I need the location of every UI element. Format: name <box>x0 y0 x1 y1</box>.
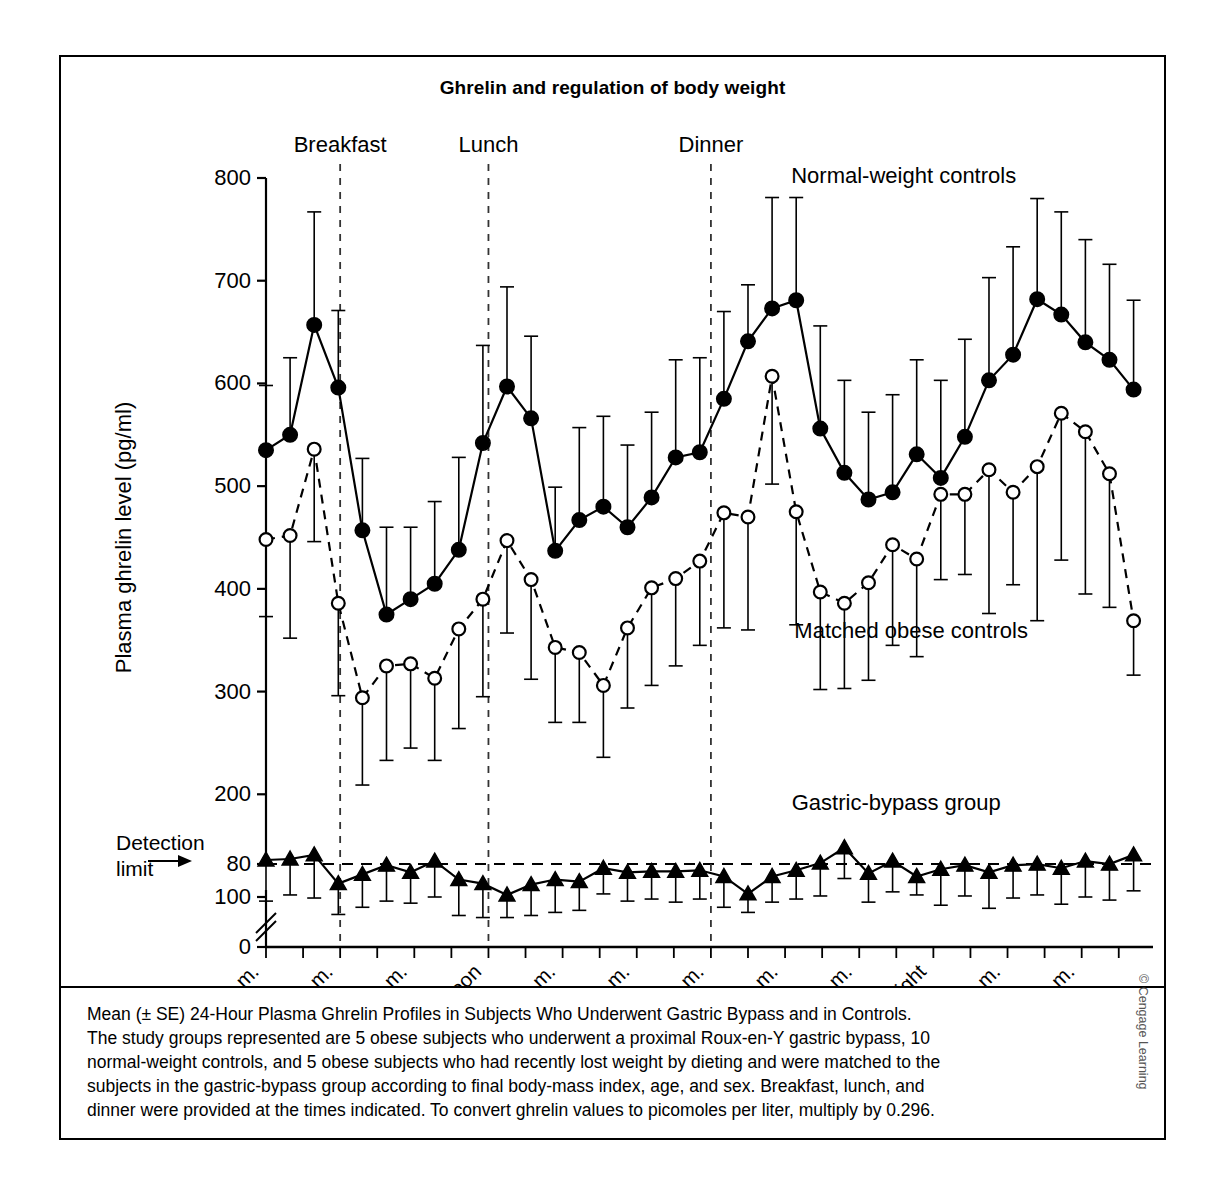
data-point-open-circle <box>1055 407 1068 420</box>
detection-limit-label-line1: Detection <box>116 831 205 854</box>
data-point-filled-circle <box>1102 353 1116 367</box>
data-point-filled-triangle <box>595 860 611 874</box>
data-point-filled-circle <box>668 450 682 464</box>
data-point-filled-triangle <box>427 853 443 867</box>
y-tick-label-80: 80 <box>227 851 251 876</box>
data-point-filled-triangle <box>885 853 901 867</box>
data-point-open-circle <box>525 573 538 586</box>
data-point-open-circle <box>693 555 706 568</box>
data-point-filled-circle <box>548 544 562 558</box>
meal-label-dinner: Dinner <box>679 132 744 157</box>
data-point-filled-circle <box>813 421 827 435</box>
data-point-filled-circle <box>789 293 803 307</box>
data-point-open-circle <box>862 576 875 589</box>
data-point-filled-circle <box>476 436 490 450</box>
data-point-open-circle <box>1007 486 1020 499</box>
data-point-open-circle <box>260 533 273 546</box>
data-point-open-circle <box>332 597 345 610</box>
x-tick-label: Noon <box>434 960 485 987</box>
y-tick-label-400: 400 <box>214 576 251 601</box>
x-tick-label: 6 a.m. <box>206 960 263 987</box>
data-point-filled-circle <box>403 592 417 606</box>
x-tick-label: 10 p.m. <box>791 960 856 987</box>
data-point-open-circle <box>838 597 851 610</box>
data-point-filled-circle <box>596 499 610 513</box>
caption-line-3: normal-weight controls, and 5 obese subj… <box>87 1050 1138 1074</box>
data-point-open-circle <box>910 553 923 566</box>
data-point-filled-triangle <box>1077 853 1093 867</box>
figure-frame: Ghrelin and regulation of body weight 08… <box>59 55 1166 1140</box>
x-tick-label: Midnight <box>859 959 930 987</box>
data-point-filled-circle <box>1126 382 1140 396</box>
x-tick-label: 4 p.m. <box>577 960 634 987</box>
data-point-filled-triangle <box>451 872 467 886</box>
data-point-filled-circle <box>885 485 899 499</box>
data-point-open-circle <box>645 581 658 594</box>
data-point-open-circle <box>1103 467 1116 480</box>
data-point-filled-circle <box>1030 292 1044 306</box>
data-point-filled-circle <box>934 471 948 485</box>
y-tick-label-600: 600 <box>214 370 251 395</box>
data-point-filled-circle <box>837 466 851 480</box>
y-tick-label-300: 300 <box>214 679 251 704</box>
data-point-open-circle <box>1127 614 1140 627</box>
caption-line-1: Mean (± SE) 24-Hour Plasma Ghrelin Profi… <box>87 1002 1138 1026</box>
y-tick-label-500: 500 <box>214 473 251 498</box>
copyright-text: © Cengage Learning <box>1136 974 1150 1090</box>
data-point-filled-circle <box>644 490 658 504</box>
data-point-filled-triangle <box>812 855 828 869</box>
data-point-filled-circle <box>861 492 875 506</box>
data-point-open-circle <box>669 572 682 585</box>
y-tick-label-700: 700 <box>214 268 251 293</box>
y-tick-label-800: 800 <box>214 165 251 190</box>
x-tick-label: 8 p.m. <box>725 960 782 987</box>
data-point-open-circle <box>597 679 610 692</box>
x-tick-label: 6 p.m. <box>651 960 708 987</box>
data-point-open-circle <box>476 593 489 606</box>
caption-line-2: The study groups represented are 5 obese… <box>87 1026 1138 1050</box>
copyright-notice: © Cengage Learning <box>1130 974 1156 1124</box>
ghrelin-chart: 080100200300400500600700800Plasma ghreli… <box>61 57 1164 987</box>
meal-label-breakfast: Breakfast <box>294 132 387 157</box>
data-point-filled-triangle <box>547 872 563 886</box>
figure-page: Ghrelin and regulation of body weight 08… <box>0 0 1226 1191</box>
data-point-open-circle <box>428 672 441 685</box>
caption-line-4: subjects in the gastric-bypass group acc… <box>87 1074 1138 1098</box>
x-tick-label: 8 a.m. <box>280 960 337 987</box>
data-point-filled-circle <box>452 543 466 557</box>
series-label-gastric-bypass: Gastric-bypass group <box>792 790 1001 815</box>
data-point-filled-circle <box>259 443 273 457</box>
data-point-filled-circle <box>307 318 321 332</box>
data-point-open-circle <box>621 621 634 634</box>
figure-caption: Mean (± SE) 24-Hour Plasma Ghrelin Profi… <box>61 986 1164 1138</box>
x-tick-label: 2 a.m. <box>948 960 1005 987</box>
x-tick-label: 10 a.m. <box>347 960 412 987</box>
data-point-open-circle <box>983 463 996 476</box>
data-point-filled-circle <box>283 428 297 442</box>
data-point-filled-triangle <box>740 886 756 900</box>
data-point-filled-circle <box>524 411 538 425</box>
x-tick-label: 4 a.m. <box>1022 960 1079 987</box>
data-point-filled-circle <box>1078 335 1092 349</box>
data-point-open-circle <box>308 443 321 456</box>
data-point-open-circle <box>1079 425 1092 438</box>
data-point-open-circle <box>404 657 417 670</box>
data-point-filled-circle <box>1054 307 1068 321</box>
data-point-open-circle <box>573 646 586 659</box>
series-gastric-bypass <box>258 840 1142 918</box>
arrow-head-icon <box>178 855 192 867</box>
series-label-normal-weight: Normal-weight controls <box>791 163 1016 188</box>
meal-label-lunch: Lunch <box>458 132 518 157</box>
data-point-open-circle <box>549 641 562 654</box>
data-point-open-circle <box>742 511 755 524</box>
data-point-filled-circle <box>331 380 345 394</box>
data-point-open-circle <box>934 488 947 501</box>
data-point-filled-triangle <box>499 887 515 901</box>
data-point-open-circle <box>452 623 465 636</box>
y-tick-label-100: 100 <box>214 884 251 909</box>
data-point-filled-circle <box>765 301 779 315</box>
data-point-filled-circle <box>1006 347 1020 361</box>
y-tick-label-0: 0 <box>239 934 251 959</box>
data-point-open-circle <box>1031 460 1044 473</box>
series-label-matched-obese: Matched obese controls <box>794 618 1028 643</box>
